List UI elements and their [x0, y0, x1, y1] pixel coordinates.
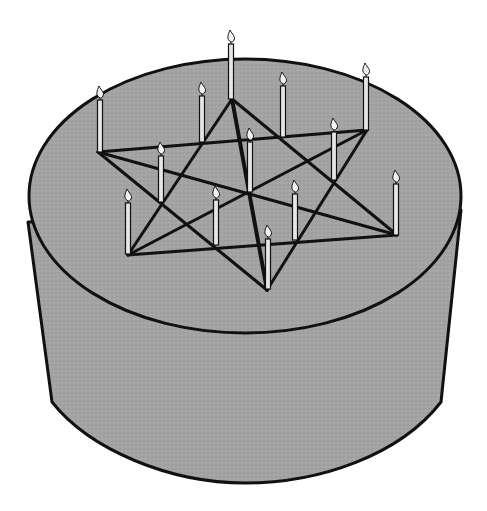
candle-body — [293, 194, 298, 240]
candle-body — [159, 156, 164, 202]
candle — [331, 118, 338, 180]
candle-body — [214, 200, 219, 245]
candle-body — [200, 96, 205, 142]
candle — [158, 142, 165, 202]
candle — [125, 189, 132, 254]
candle — [199, 82, 206, 142]
candle — [97, 86, 104, 152]
candle-body — [332, 132, 337, 180]
candle — [247, 128, 254, 192]
candle — [280, 72, 287, 137]
candle — [292, 180, 299, 240]
candle-body — [126, 203, 131, 254]
cake-drawing — [0, 0, 487, 511]
flame-icon — [228, 30, 235, 42]
cake-illustration — [0, 0, 487, 511]
candle-body — [248, 142, 253, 192]
candle-body — [364, 77, 369, 130]
candle — [213, 186, 220, 245]
flame-icon — [363, 63, 370, 75]
candle — [393, 170, 400, 235]
candle-body — [281, 86, 286, 137]
flame-icon — [97, 86, 104, 98]
candle — [228, 30, 235, 99]
candle-body — [98, 100, 103, 152]
candle — [363, 63, 370, 130]
candle — [265, 225, 272, 289]
candle-body — [229, 44, 234, 99]
candle-body — [394, 184, 399, 235]
candle-body — [266, 239, 271, 289]
